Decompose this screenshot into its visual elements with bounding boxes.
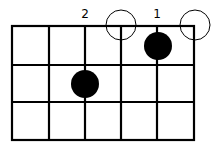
finger-label: 2 [81, 7, 89, 21]
finger-label: 1 [153, 7, 161, 21]
finger-dot-2 [71, 70, 99, 98]
chord-diagram: 2 1 [0, 0, 219, 143]
finger-dot-1 [144, 32, 172, 60]
